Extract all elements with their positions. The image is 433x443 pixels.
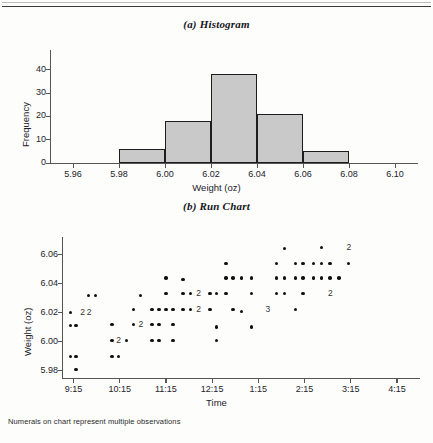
run-chart-data-point	[320, 262, 323, 265]
histogram-x-tick-label: 6.06	[287, 169, 319, 179]
run-chart-data-point	[181, 308, 184, 311]
run-chart-data-point	[224, 262, 227, 265]
run-chart-data-point	[301, 262, 304, 265]
run-chart-x-tick	[119, 379, 120, 383]
run-chart-data-point	[294, 276, 297, 279]
run-chart-data-point	[69, 324, 72, 327]
run-chart-multiple-observation-numeral: 2	[196, 289, 201, 298]
run-chart-data-point	[125, 339, 128, 342]
run-chart-x-tick-label: 2:15	[289, 384, 321, 394]
histogram-title: (a) Histogram	[0, 18, 433, 30]
run-chart-multiple-observation-numeral: 3	[266, 305, 271, 314]
run-chart-y-tick	[58, 283, 63, 284]
histogram-bar	[119, 149, 165, 163]
run-chart-data-point	[150, 339, 153, 342]
run-chart-data-point	[275, 262, 278, 265]
run-chart-data-point	[69, 311, 72, 314]
run-chart-y-tick	[58, 254, 63, 255]
run-chart-data-point	[208, 292, 211, 295]
page-rule-faint	[2, 2, 431, 3]
run-chart-data-point	[275, 276, 278, 279]
run-chart-x-tick-label: 10:15	[104, 384, 136, 394]
run-chart-data-point	[250, 276, 253, 279]
histogram-y-tick-label: 30	[22, 87, 46, 97]
run-chart-data-point	[224, 292, 227, 295]
histogram-y-tick	[46, 116, 51, 117]
run-chart-data-point	[181, 278, 184, 281]
histogram-x-tick	[257, 164, 258, 168]
histogram-x-tick	[303, 164, 304, 168]
run-chart-data-point	[69, 355, 72, 358]
run-chart-y-axis	[62, 237, 63, 378]
run-chart-data-point	[337, 276, 340, 279]
histogram-y-axis	[50, 50, 51, 163]
run-chart-data-point	[164, 308, 167, 311]
histogram-x-tick-label: 5.96	[57, 169, 89, 179]
run-chart-data-point	[240, 310, 243, 313]
run-chart-data-point	[110, 355, 113, 358]
run-chart-data-point	[94, 294, 97, 297]
histogram-x-tick	[73, 164, 74, 168]
histogram-x-tick	[211, 164, 212, 168]
run-chart-data-point	[171, 323, 174, 326]
run-chart-y-tick	[58, 370, 63, 371]
run-chart-x-axis-title: Time	[0, 397, 433, 408]
histogram-y-tick-label: 0	[22, 157, 46, 167]
run-chart-data-point	[164, 276, 167, 279]
run-chart-x-tick	[73, 379, 74, 383]
run-chart-data-point	[312, 262, 315, 265]
run-chart-data-point	[189, 308, 192, 311]
run-chart-data-point	[189, 292, 192, 295]
run-chart-data-point	[74, 355, 77, 358]
run-chart-data-point	[215, 325, 218, 328]
run-chart-y-tick	[58, 341, 63, 342]
run-chart-multiple-observation-numeral: 2	[116, 336, 121, 345]
run-chart-x-tick	[396, 379, 397, 383]
run-chart-multiple-observation-numeral: 2	[80, 308, 85, 317]
run-chart-data-point	[208, 308, 211, 311]
run-chart-multiple-observation-numeral: 2	[346, 243, 351, 252]
run-chart-data-point	[275, 292, 278, 295]
page-rule	[2, 6, 431, 7]
run-chart-data-point	[171, 339, 174, 342]
run-chart-data-point	[320, 276, 323, 279]
histogram-bar	[257, 114, 303, 163]
histogram-y-tick	[46, 163, 51, 164]
run-chart-x-tick	[165, 379, 166, 383]
histogram-x-tick-label: 6.00	[149, 169, 181, 179]
run-chart-y-tick-label: 6.06	[24, 249, 58, 259]
run-chart-data-point	[74, 368, 77, 371]
run-chart-x-tick-label: 11:15	[150, 384, 182, 394]
run-chart-data-point	[164, 292, 167, 295]
run-chart-data-point	[215, 339, 218, 342]
run-chart-x-tick	[258, 379, 259, 383]
run-chart-data-point	[150, 308, 153, 311]
histogram-x-tick	[349, 164, 350, 168]
run-chart-title: (b) Run Chart	[0, 200, 433, 212]
run-chart-data-point	[250, 325, 253, 328]
histogram-x-tick-label: 6.08	[333, 169, 365, 179]
run-chart-data-point	[283, 292, 286, 295]
histogram-x-tick-label: 6.04	[241, 169, 273, 179]
run-chart-data-point	[171, 308, 174, 311]
histogram-x-axis-title: Weight (oz)	[0, 182, 433, 193]
run-chart-x-axis	[62, 378, 420, 379]
run-chart-data-point	[301, 276, 304, 279]
run-chart-data-point	[328, 276, 331, 279]
run-chart-data-point	[294, 308, 297, 311]
histogram-bar	[165, 121, 211, 163]
run-chart-data-point	[157, 339, 160, 342]
run-chart-x-tick	[212, 379, 213, 383]
run-chart-data-point	[181, 292, 184, 295]
run-chart-data-point	[283, 276, 286, 279]
run-chart-multiple-observation-numeral: 2	[196, 305, 201, 314]
run-chart-multiple-observation-numeral: 2	[139, 320, 144, 329]
run-chart-data-point	[132, 323, 135, 326]
run-chart-data-point	[139, 294, 142, 297]
histogram-x-tick	[395, 164, 396, 168]
run-chart-data-point	[157, 308, 160, 311]
run-chart-x-tick	[304, 379, 305, 383]
run-chart-data-point	[74, 324, 77, 327]
histogram-x-tick-label: 6.02	[195, 169, 227, 179]
run-chart-data-point	[224, 276, 227, 279]
